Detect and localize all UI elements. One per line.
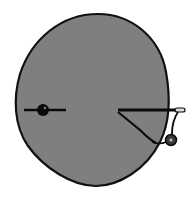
blob-shape (16, 14, 169, 186)
hook-circle-center (169, 138, 172, 141)
left-marker-dot-icon (37, 104, 49, 116)
hook-tip (175, 108, 185, 112)
hook-arc (172, 112, 178, 134)
diagram-svg (0, 0, 195, 210)
left-marker-highlight (44, 107, 46, 109)
diagram-canvas: Gray rounded blob outline with a dot-on-… (0, 0, 195, 210)
